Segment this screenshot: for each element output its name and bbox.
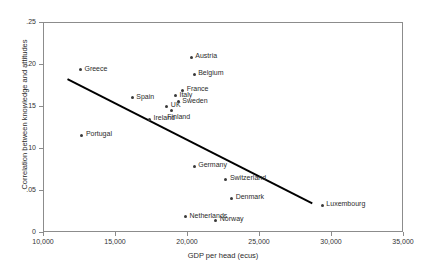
point-label: Portugal — [86, 130, 112, 138]
y-tick-mark — [39, 148, 43, 149]
point-marker — [170, 109, 173, 112]
point-marker — [181, 89, 184, 92]
x-tick-mark — [43, 232, 44, 236]
x-tick-label: 35,000 — [392, 238, 413, 246]
y-tick-mark — [39, 64, 43, 65]
point-label: Austria — [195, 52, 217, 60]
point-label: Germany — [198, 161, 227, 169]
x-tick-mark — [403, 232, 404, 236]
point-label: Spain — [136, 93, 154, 101]
point-label: Finland — [167, 113, 190, 121]
point-label: Norway — [220, 215, 244, 223]
point-marker — [321, 204, 324, 207]
y-axis-title: Correlation between knowledge and attitu… — [20, 15, 29, 215]
x-tick-mark — [115, 232, 116, 236]
point-label: Switzerland — [230, 174, 266, 182]
point-marker — [148, 118, 151, 121]
point-marker — [193, 165, 196, 168]
point-marker — [190, 56, 193, 59]
x-axis-title: GDP per head (ecus) — [43, 251, 403, 260]
y-tick-label: 0 — [32, 228, 36, 236]
x-tick-mark — [331, 232, 332, 236]
point-label: Luxembourg — [326, 200, 365, 208]
point-marker — [131, 96, 134, 99]
point-label: Denmark — [236, 193, 264, 201]
x-tick-label: 15,000 — [104, 238, 125, 246]
x-tick-mark — [259, 232, 260, 236]
point-marker — [165, 105, 168, 108]
x-tick-mark — [187, 232, 188, 236]
x-tick-label: 25,000 — [248, 238, 269, 246]
y-tick-mark — [39, 190, 43, 191]
point-label: Belgium — [198, 69, 223, 77]
x-tick-label: 20,000 — [176, 238, 197, 246]
x-tick-label: 30,000 — [320, 238, 341, 246]
y-tick-mark — [39, 106, 43, 107]
scatter-chart-figure: 0.05.10.15.20.25 10,00015,00020,00025,00… — [0, 0, 422, 270]
point-label: Sweden — [182, 97, 207, 105]
x-tick-label: 10,000 — [32, 238, 53, 246]
point-label: Greece — [84, 65, 107, 73]
point-label: France — [187, 85, 209, 93]
point-marker — [193, 73, 196, 76]
y-tick-mark — [39, 22, 43, 23]
